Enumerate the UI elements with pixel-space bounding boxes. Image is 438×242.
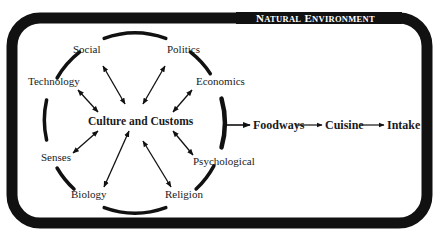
diagram-graphics [0,0,438,242]
title-rest-environment: NVIRONMENT [312,14,375,24]
arrow-senses [73,131,98,153]
arrow-biology [104,131,129,187]
arrow-economics [173,90,192,112]
arrow-technology [78,90,98,112]
factor-label-biology: Biology [71,189,106,200]
title-rest-natural: ATURAL [264,14,301,24]
flow-label-foodways: Foodways [253,119,304,131]
environment-title: NATURAL ENVIRONMENT [256,13,375,24]
title-initial-n: N [256,12,264,24]
arrow-psychological [173,131,193,155]
diagram-canvas: NATURAL ENVIRONMENT Culture and Customs … [0,0,438,242]
factor-label-economics: Economics [196,76,245,87]
factor-label-religion: Religion [165,189,203,200]
arrow-religion [143,141,171,187]
factor-label-technology: Technology [28,76,80,87]
factor-label-politics: Politics [167,44,200,55]
flow-label-cuisine: Cuisine [325,119,364,131]
factor-label-senses: Senses [41,152,71,163]
flow-label-intake: Intake [387,119,420,131]
factor-label-psychological: Psychological [193,156,255,167]
arrow-politics [143,66,165,104]
title-initial-e: E [304,12,312,24]
factor-label-social: Social [73,44,101,55]
center-label-culture-and-customs: Culture and Customs [88,116,193,128]
arrow-social [103,66,125,104]
